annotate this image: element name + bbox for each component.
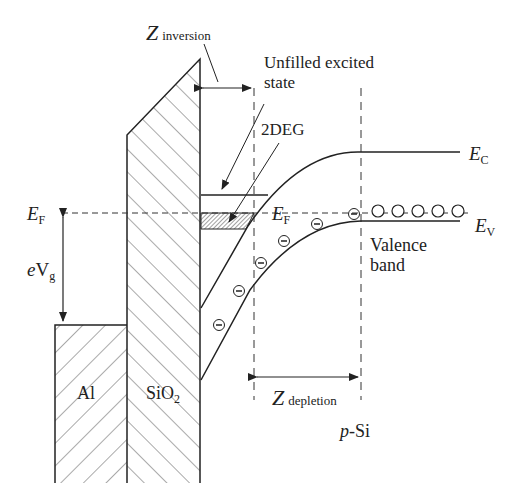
hole-icon bbox=[372, 205, 384, 217]
band-diagram: Zinversion Unfilled excited state 2DEG E… bbox=[0, 0, 519, 502]
electron-icon bbox=[279, 236, 290, 247]
hole-icon bbox=[412, 205, 424, 217]
aluminum-gate-region bbox=[55, 325, 127, 483]
sio2-oxide-region bbox=[127, 59, 200, 483]
hole-icon bbox=[452, 205, 464, 217]
2deg-region bbox=[201, 213, 254, 229]
ef-left-label: EF bbox=[26, 203, 46, 227]
ef-mid-label: EF bbox=[271, 203, 291, 227]
evg-label: eVg bbox=[27, 259, 55, 283]
2deg-label: 2DEG bbox=[261, 120, 304, 139]
holes bbox=[372, 205, 464, 217]
unfilled-state-label-line2: state bbox=[264, 73, 295, 92]
conduction-band-curve bbox=[201, 152, 460, 308]
ec-label: EC bbox=[468, 143, 489, 167]
valence-band-label-line1: Valence bbox=[370, 235, 427, 255]
electron-icon bbox=[349, 209, 360, 220]
al-label: Al bbox=[77, 383, 95, 403]
electron-icon bbox=[234, 286, 245, 297]
z-inversion-label: Zinversion bbox=[146, 20, 211, 45]
hole-icon bbox=[432, 205, 444, 217]
ev-label: EV bbox=[474, 215, 496, 239]
unfilled-state-label-line1: Unfilled excited bbox=[264, 53, 374, 72]
z-inversion-leader bbox=[204, 44, 218, 82]
z-depletion-label: Zdepletion bbox=[272, 385, 337, 410]
valence-band-label-line2: band bbox=[370, 255, 405, 275]
electron-icon bbox=[256, 258, 267, 269]
hole-icon bbox=[392, 205, 404, 217]
electron-icon bbox=[312, 219, 323, 230]
p-si-label: p-Si bbox=[338, 421, 370, 441]
electron-icon bbox=[214, 320, 225, 331]
